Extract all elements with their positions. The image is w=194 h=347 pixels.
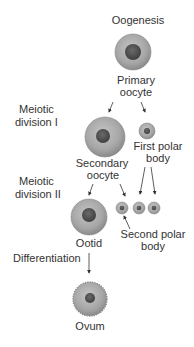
ootid-label: Ootid xyxy=(76,237,102,249)
meiotic-division-2-label-line2: division II xyxy=(15,188,61,200)
secondary-oocyte-cell xyxy=(85,117,125,157)
nucleus xyxy=(96,129,110,143)
secondary-oocyte-label-line1: Secondary xyxy=(76,157,129,169)
meiotic-division-1-label-line2: division I xyxy=(15,116,58,128)
second-polar-body-cell-1 xyxy=(116,202,128,214)
nucleus xyxy=(144,128,150,134)
arrow-to-second-polar-body-1 xyxy=(120,184,125,196)
polar-body-cell-3 xyxy=(148,202,160,214)
arrow-to-polar-body-2 xyxy=(140,167,145,194)
ovum-label: Ovum xyxy=(75,320,104,332)
first-polar-body-label-line2: body xyxy=(146,152,170,164)
nucleus xyxy=(125,44,141,60)
nucleus xyxy=(120,206,125,211)
primary-oocyte-label-line1: Primary xyxy=(117,74,155,86)
oogenesis-diagram: Oogenesis Primary oocyte Meiotic divisio… xyxy=(0,0,194,347)
arrow-to-ootid xyxy=(89,184,93,195)
second-polar-body-label-line1: Second polar xyxy=(121,228,186,240)
polar-body-cell-2 xyxy=(133,202,145,214)
first-polar-body-cell xyxy=(139,123,155,139)
differentiation-label: Differentiation xyxy=(13,252,81,264)
second-polar-body-label-line2: body xyxy=(141,240,165,252)
first-polar-body-label-line1: First polar xyxy=(134,140,183,152)
diagram-title: Oogenesis xyxy=(112,14,165,26)
ootid-cell xyxy=(71,199,107,235)
primary-oocyte-cell xyxy=(115,34,151,70)
arrow-to-secondary-oocyte xyxy=(109,102,113,112)
meiotic-division-2-label-line1: Meiotic xyxy=(19,175,54,187)
nucleus xyxy=(82,208,96,222)
arrow-to-first-polar-body xyxy=(141,102,145,112)
meiotic-division-1-label-line1: Meiotic xyxy=(19,103,54,115)
nucleus xyxy=(85,293,95,303)
ovum-cell xyxy=(73,282,107,316)
arrow-to-polar-body-3 xyxy=(151,167,155,194)
nucleus xyxy=(137,206,142,211)
secondary-oocyte-label-line2: oocyte xyxy=(87,169,119,181)
primary-oocyte-label-line2: oocyte xyxy=(120,86,152,98)
nucleus xyxy=(152,206,157,211)
